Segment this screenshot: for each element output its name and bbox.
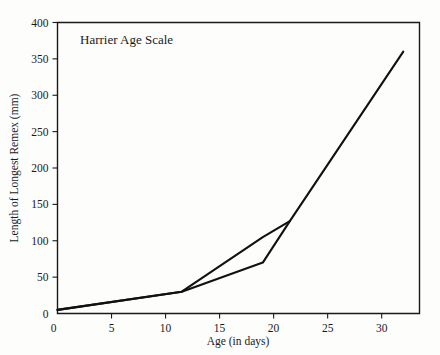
y-tick-label: 350 (31, 53, 49, 65)
x-tick-label: 30 (376, 322, 388, 334)
y-tick-label: 100 (31, 235, 49, 247)
y-tick-label: 0 (43, 308, 49, 320)
chart-title: Harrier Age Scale (80, 32, 173, 47)
x-tick-label: 25 (322, 322, 334, 334)
x-tick-label: 5 (109, 322, 115, 334)
x-tick-label: 10 (160, 322, 172, 334)
chart-background (0, 0, 440, 355)
y-axis-label: Length of Longest Remex (mm) (8, 93, 21, 242)
x-tick-label: 20 (268, 322, 280, 334)
y-tick-label: 250 (31, 126, 49, 138)
y-tick-label: 300 (31, 89, 49, 101)
x-axis-label: Age (in days) (207, 335, 270, 348)
x-tick-label: 0 (51, 322, 57, 334)
y-tick-label: 400 (31, 17, 49, 29)
harrier-age-scale-chart: 050100150200250300350400 051015202530 Ha… (0, 0, 440, 355)
y-tick-label: 50 (37, 271, 49, 283)
y-tick-label: 200 (31, 162, 49, 174)
x-tick-label: 15 (214, 322, 226, 334)
chart-figure: 050100150200250300350400 051015202530 Ha… (0, 0, 440, 355)
y-tick-label: 150 (31, 198, 49, 210)
